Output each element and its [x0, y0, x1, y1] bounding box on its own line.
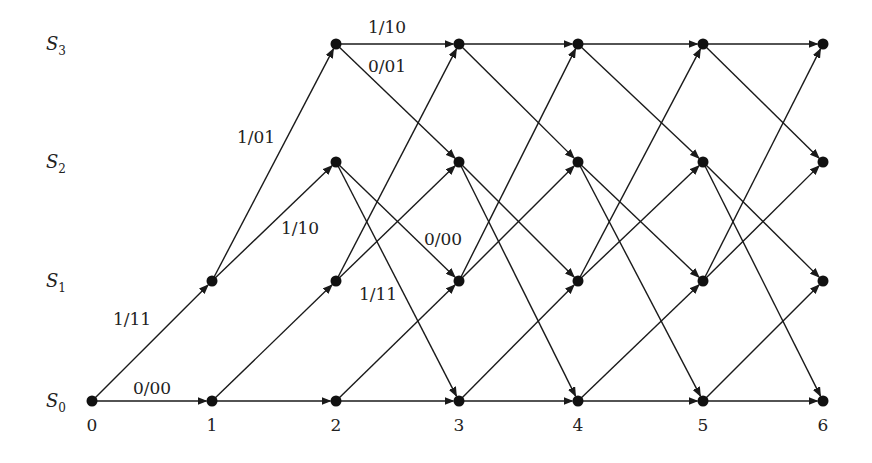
transition-edge: [578, 49, 700, 281]
trellis-diagram: S0S1S2S3 0123456 0/001/111/101/011/100/0…: [0, 0, 872, 463]
stage-label: 3: [454, 415, 465, 435]
edge-label: 0/00: [133, 378, 171, 398]
edge-label: 1/10: [368, 17, 406, 37]
stage-label: 4: [573, 415, 584, 435]
state-node: [573, 157, 584, 168]
state-node: [698, 396, 709, 407]
state-node: [454, 157, 465, 168]
transition-edge: [459, 162, 574, 277]
edges-group: [92, 44, 821, 401]
state-label: S0: [46, 390, 66, 415]
state-node: [454, 39, 465, 50]
transition-edge: [703, 162, 821, 396]
state-node: [454, 396, 465, 407]
edge-label: 1/10: [281, 218, 319, 238]
stage-label: 5: [698, 415, 709, 435]
transition-edge: [578, 162, 700, 396]
state-node: [207, 396, 218, 407]
transition-edge: [703, 44, 819, 158]
state-label: S2: [46, 151, 66, 176]
transition-edge: [703, 49, 821, 281]
state-label: S3: [46, 33, 66, 58]
transition-edge: [703, 166, 819, 281]
edge-label: 1/01: [237, 127, 275, 147]
transition-edge: [578, 44, 699, 158]
state-node: [698, 276, 709, 287]
state-node: [87, 396, 98, 407]
edge-label: 0/00: [424, 229, 462, 249]
edge-labels-group: 0/001/111/101/011/100/010/001/11: [113, 17, 462, 398]
state-node: [573, 39, 584, 50]
transition-edge: [703, 162, 819, 277]
state-node: [573, 396, 584, 407]
transition-edge: [459, 162, 576, 396]
transition-edge: [459, 166, 574, 281]
state-node: [698, 39, 709, 50]
transition-edge: [578, 162, 699, 277]
transition-edge: [336, 162, 456, 396]
edge-label: 0/01: [368, 56, 406, 76]
state-node: [698, 157, 709, 168]
state-node: [454, 276, 465, 287]
state-node: [331, 276, 342, 287]
state-node: [331, 39, 342, 50]
state-node: [818, 39, 829, 50]
state-node: [331, 396, 342, 407]
state-node: [818, 157, 829, 168]
transition-edge: [459, 49, 576, 281]
edge-label: 1/11: [113, 309, 151, 329]
state-node: [818, 276, 829, 287]
transition-edge: [578, 285, 699, 401]
stage-label: 2: [331, 415, 342, 435]
state-node: [573, 276, 584, 287]
transition-edge: [336, 162, 455, 277]
state-label: S1: [46, 270, 66, 295]
transition-edge: [459, 44, 574, 158]
state-node: [331, 157, 342, 168]
transition-edge: [578, 166, 699, 281]
stage-label: 0: [87, 415, 98, 435]
state-node: [207, 276, 218, 287]
state-node: [818, 396, 829, 407]
transition-edge: [459, 285, 574, 401]
transition-edge: [336, 166, 455, 281]
transition-edge: [212, 49, 333, 281]
stage-label: 6: [818, 415, 829, 435]
nodes-group: [87, 39, 829, 407]
state-labels-group: S0S1S2S3: [46, 33, 66, 415]
stage-labels-group: 0123456: [87, 415, 829, 435]
transition-edge: [212, 285, 332, 401]
transition-edge: [703, 285, 819, 401]
stage-label: 1: [207, 415, 218, 435]
edge-label: 1/11: [359, 284, 397, 304]
